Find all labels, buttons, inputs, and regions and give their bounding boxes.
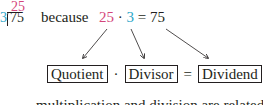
arrows-diagram [0, 0, 263, 105]
arrow-to-quotient [83, 29, 107, 58]
dot-operator: · [114, 66, 119, 82]
quotient-box: Quotient [47, 65, 108, 83]
term-equation: Quotient·Divisor=Dividend [47, 65, 262, 83]
footer-text: multiplication and division are related … [36, 97, 263, 105]
arrow-to-divisor [131, 29, 144, 58]
equals-sign: = [184, 66, 192, 82]
arrow-to-dividend [166, 29, 208, 58]
divisor-box: Divisor [125, 65, 178, 83]
dividend-box: Dividend [198, 65, 262, 83]
